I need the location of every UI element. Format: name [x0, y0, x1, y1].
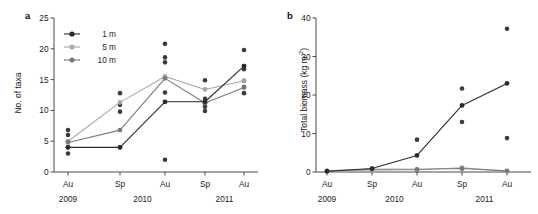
x-axis-year-group-label: 2010: [385, 194, 404, 204]
y-tick-label: 10: [301, 129, 311, 139]
series-marker: [118, 100, 123, 105]
legend-item-label: 1 m: [102, 29, 116, 39]
x-tick-label: Sp: [200, 179, 211, 189]
data-point: [118, 109, 123, 114]
legend-item-label: 5 m: [102, 42, 116, 52]
series-marker: [460, 166, 465, 171]
series-line: [327, 83, 507, 171]
series-marker: [460, 103, 465, 108]
data-point: [460, 120, 465, 125]
legend-marker: [69, 31, 74, 36]
data-point: [163, 42, 168, 47]
x-axis-year-group-label: 2011: [216, 194, 234, 204]
y-tick-label: 0: [306, 167, 311, 177]
y-tick-label: 0: [44, 167, 49, 177]
y-tick-label: 15: [39, 75, 49, 85]
x-tick-label: Au: [502, 179, 513, 189]
data-point: [505, 136, 510, 141]
data-point: [242, 91, 247, 96]
legend-marker: [69, 57, 74, 62]
data-point: [460, 86, 465, 91]
series-marker: [505, 168, 510, 173]
data-point: [163, 157, 168, 162]
figure-container: a No. of taxa 0510152025AuSpAuSpAu200920…: [0, 0, 538, 214]
series-marker: [242, 78, 247, 83]
x-tick-label: Au: [63, 179, 74, 189]
data-point: [66, 151, 71, 156]
data-point: [203, 78, 208, 83]
y-tick-label: 20: [301, 90, 311, 100]
y-tick-label: 10: [39, 105, 49, 115]
x-tick-label: Sp: [457, 179, 468, 189]
panel-a-plot: 0510152025AuSpAuSpAu2009201020111 m5 m10…: [0, 0, 269, 214]
series-marker: [415, 153, 420, 158]
data-point: [66, 128, 71, 133]
data-point: [505, 26, 510, 31]
data-point: [163, 60, 168, 65]
series-marker: [203, 87, 208, 92]
y-tick-label: 5: [44, 136, 49, 146]
x-axis-year-group-label: 2009: [318, 194, 337, 204]
y-tick-label: 25: [39, 13, 49, 23]
x-tick-label: Sp: [115, 179, 126, 189]
data-point: [415, 137, 420, 142]
x-axis-year-group-label: 2010: [133, 194, 152, 204]
panel-b: b Total biomass (kg m-2) 010203040AuSpAu…: [269, 0, 538, 214]
series-marker: [118, 145, 123, 150]
panel-b-plot: 010203040AuSpAuSpAu200920102011: [269, 0, 538, 214]
panel-a: a No. of taxa 0510152025AuSpAuSpAu200920…: [0, 0, 269, 214]
series-marker: [66, 145, 71, 150]
legend-marker: [69, 44, 74, 49]
y-tick-label: 40: [301, 13, 311, 23]
series-marker: [505, 81, 510, 86]
series-line: [68, 77, 244, 142]
data-point: [203, 109, 208, 114]
series-marker: [203, 99, 208, 104]
series-marker: [415, 167, 420, 172]
y-tick-label: 30: [301, 52, 311, 62]
data-point: [118, 91, 123, 96]
y-tick-label: 20: [39, 44, 49, 54]
series-marker: [242, 85, 247, 90]
x-tick-label: Au: [322, 179, 333, 189]
series-marker: [325, 169, 330, 174]
series-marker: [163, 99, 168, 104]
x-axis-year-group-label: 2009: [59, 194, 78, 204]
x-tick-label: Au: [160, 179, 171, 189]
data-point: [163, 90, 168, 95]
data-point: [163, 55, 168, 60]
x-tick-label: Au: [239, 179, 250, 189]
data-point: [66, 133, 71, 138]
x-tick-label: Sp: [367, 179, 378, 189]
series-marker: [242, 64, 247, 69]
data-point: [242, 48, 247, 53]
series-marker: [66, 140, 71, 145]
series-marker: [370, 166, 375, 171]
series-line: [68, 66, 244, 147]
series-marker: [163, 76, 168, 81]
x-tick-label: Au: [412, 179, 423, 189]
series-marker: [118, 128, 123, 133]
legend-item-label: 10 m: [98, 55, 117, 65]
x-axis-year-group-label: 2011: [476, 194, 494, 204]
